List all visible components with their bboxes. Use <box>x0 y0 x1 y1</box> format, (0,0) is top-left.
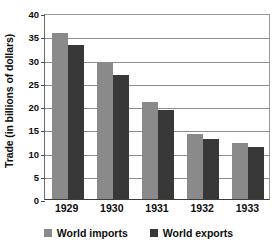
bar-1930-world-imports <box>97 63 113 199</box>
bar-1930-world-exports <box>113 75 129 199</box>
bar-chart-figure: Trade (in billions of dollars) 051015202… <box>0 0 277 245</box>
legend-swatch-icon <box>44 229 52 237</box>
y-axis-tick-label: 5 <box>34 171 39 182</box>
legend-item-world-exports: World exports <box>150 227 233 239</box>
bar-1933-world-imports <box>232 143 248 199</box>
y-axis-tick-label: 20 <box>28 102 39 113</box>
legend-label: World exports <box>163 227 233 239</box>
y-axis-tick-label: 35 <box>28 32 39 43</box>
y-axis-tick-labels: 0510152025303540 <box>18 0 42 206</box>
plot-area <box>44 14 270 200</box>
y-axis-title-text: Trade (in billions of dollars) <box>3 34 15 168</box>
bar-1931-world-imports <box>142 102 158 199</box>
bar-1929-world-exports <box>68 45 84 199</box>
y-axis-title: Trade (in billions of dollars) <box>0 0 18 202</box>
bar-1933-world-exports <box>248 147 264 199</box>
bar-1931-world-exports <box>158 110 174 199</box>
y-axis-tick-label: 30 <box>28 55 39 66</box>
x-axis-tick-label-1931: 1931 <box>145 202 168 214</box>
y-axis-tick-label: 0 <box>34 195 39 206</box>
legend-label: World imports <box>57 227 128 239</box>
legend-swatch-icon <box>150 229 158 237</box>
legend-item-world-imports: World imports <box>44 227 128 239</box>
x-axis-tick-label-1929: 1929 <box>55 202 78 214</box>
bar-1932-world-exports <box>203 139 219 199</box>
x-axis-tick-label-1932: 1932 <box>191 202 214 214</box>
x-axis-tick-label-1933: 1933 <box>236 202 259 214</box>
y-axis-tick-label: 25 <box>28 78 39 89</box>
y-axis-tick-label: 10 <box>28 148 39 159</box>
chart-legend: World importsWorld exports <box>0 224 277 242</box>
bar-1932-world-imports <box>187 134 203 199</box>
x-axis-tick-label-1930: 1930 <box>100 202 123 214</box>
x-axis-tick-labels: 19291930193119321933 <box>44 202 270 218</box>
bars-layer <box>45 15 269 199</box>
bar-1929-world-imports <box>52 33 68 199</box>
y-axis-tick-label: 15 <box>28 125 39 136</box>
y-axis-tick-label: 40 <box>28 9 39 20</box>
